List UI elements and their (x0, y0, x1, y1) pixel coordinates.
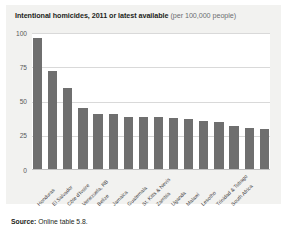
y-tick-label: 50 (0, 98, 27, 105)
plot-area (32, 33, 270, 170)
chart-title-main: Intentional homicides, 2011 or latest av… (15, 11, 168, 20)
x-tick-label: Lesotho (200, 190, 217, 207)
bar (184, 119, 193, 170)
x-axis-line (32, 169, 270, 170)
bar (33, 38, 42, 170)
bar (109, 114, 118, 170)
bar (199, 121, 208, 170)
bar (229, 126, 238, 170)
source-label: Source: (11, 218, 36, 225)
bar (93, 114, 102, 170)
y-tick-label: 100 (0, 30, 27, 37)
y-tick-label: 25 (0, 132, 27, 139)
x-axis-labels: HondurasEl SalvadorCôte d'IvoireVenezuel… (32, 171, 270, 207)
bar (63, 88, 72, 170)
source-note: Source: Online table 5.8. (11, 218, 88, 225)
y-tick-label: 75 (0, 64, 27, 71)
bar (78, 108, 87, 170)
bar (260, 129, 269, 170)
bar (139, 117, 148, 170)
x-tick-label: Jamaica (111, 189, 129, 207)
bar (214, 122, 223, 170)
chart-title-unit: (per 100,000 people) (170, 11, 236, 20)
chart-figure: Intentional homicides, 2011 or latest av… (0, 0, 287, 235)
chart-title: Intentional homicides, 2011 or latest av… (15, 11, 277, 20)
y-axis-labels: 0255075100 (0, 33, 27, 170)
bar (154, 117, 163, 170)
bar (245, 128, 254, 170)
bar-series (32, 33, 270, 170)
bar (124, 117, 133, 170)
y-tick-label: 0 (0, 167, 27, 174)
x-tick-label: Belize (96, 193, 110, 207)
x-tick-label: Uganda (170, 190, 187, 207)
bar (169, 118, 178, 170)
source-value: Online table 5.8. (38, 218, 88, 225)
bar (48, 71, 57, 170)
